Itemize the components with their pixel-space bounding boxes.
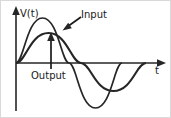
y-axis-label: V(t) <box>20 8 39 19</box>
y-axis-arrow-icon <box>12 6 20 15</box>
input-callout-arrow-icon <box>63 17 82 31</box>
y-axis <box>12 6 20 111</box>
output-waveform-curve <box>16 33 146 91</box>
waveform-figure: V(t) Input Output t <box>0 0 171 118</box>
x-axis-label: t <box>155 65 159 76</box>
input-label: Input <box>81 9 107 20</box>
output-label: Output <box>31 70 66 81</box>
